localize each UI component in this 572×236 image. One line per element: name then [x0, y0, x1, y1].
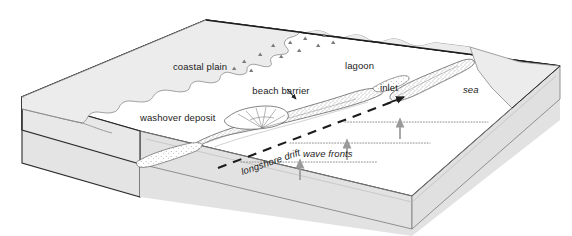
label-sea: sea: [463, 85, 479, 95]
label-inlet: inlet: [380, 83, 398, 93]
label-beach-barrier: beach barrier: [252, 86, 309, 96]
label-lagoon: lagoon: [345, 61, 374, 71]
block-diagram: coastal plain lagoon sea inlet beach bar…: [0, 0, 572, 236]
label-coastal-plain: coastal plain: [173, 62, 227, 72]
label-washover-deposit: washover deposit: [140, 113, 216, 123]
block-diagram-svg: [0, 0, 572, 236]
label-wave-fronts: wave fronts: [303, 149, 353, 159]
